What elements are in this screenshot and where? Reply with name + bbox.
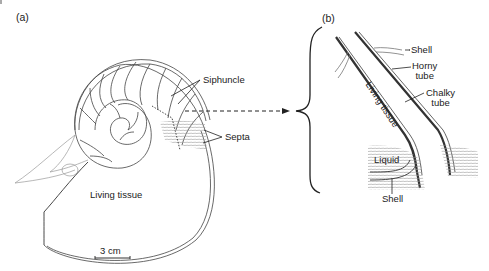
living-tissue-label: Living tissue [90, 190, 142, 200]
panel-b-label: (b) [322, 13, 335, 24]
septum-bottom [368, 146, 425, 190]
nautilus-shell [44, 60, 214, 264]
shell-bottom-label: Shell [382, 194, 403, 204]
siphuncle-label: Siphuncle [203, 75, 245, 85]
panel-a-label: (a) [16, 12, 29, 23]
horny-tube-line2: tube [412, 71, 437, 81]
septa-label: Septa [225, 132, 250, 142]
septum-right [440, 145, 478, 178]
horny-tube-label: Horny tube [412, 61, 437, 81]
nautilus-hood [15, 135, 88, 183]
shell-top-label: Shell [411, 45, 432, 55]
liquid-label: Liquid [374, 155, 399, 165]
chalky-tube-line2: tube [426, 98, 455, 108]
curly-brace [296, 27, 322, 193]
chamber-liquid [160, 121, 207, 150]
arrowhead [282, 108, 290, 114]
chalky-tube-label: Chalky tube [426, 88, 455, 108]
scale-bar-label: 3 cm [100, 246, 121, 256]
mantle-outline [44, 162, 88, 245]
